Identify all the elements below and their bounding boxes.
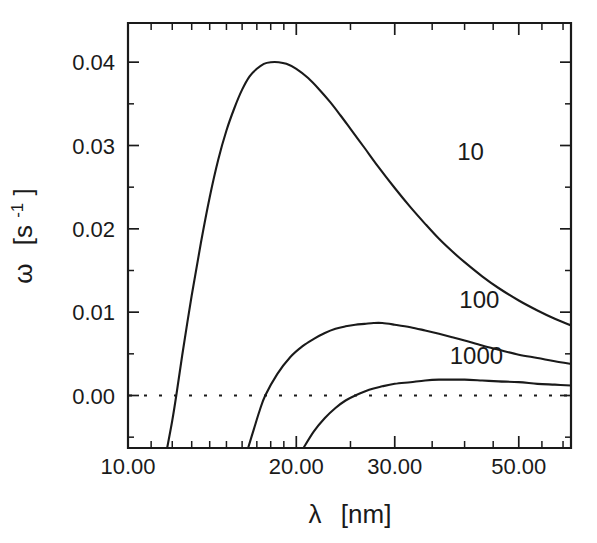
y-axis-title-exponent: -1 [8, 203, 27, 218]
curve-series-1000 [303, 380, 571, 448]
y-axis-title-symbol: ω [8, 263, 38, 283]
axes-frame [128, 23, 571, 448]
x-tick-label: 50.00 [491, 454, 546, 479]
y-axis-tick-labels: 0.000.010.020.030.04 [72, 50, 115, 408]
x-tick-label: 20.00 [269, 454, 324, 479]
x-axis-minor-ticks [151, 23, 563, 448]
y-tick-label: 0.02 [72, 217, 115, 242]
curve-label-100: 100 [459, 286, 499, 313]
curve-label-1000: 1000 [450, 342, 503, 369]
dispersion-relation-plot: 10 100 1000 10.0020.0030.0050.00 0.000.0… [0, 0, 597, 543]
y-tick-label: 0.03 [72, 134, 115, 159]
x-tick-label: 10.00 [100, 454, 155, 479]
y-tick-label: 0.00 [72, 384, 115, 409]
curve-series-100 [248, 323, 571, 448]
y-tick-label: 0.01 [72, 300, 115, 325]
figure-canvas: 10 100 1000 10.0020.0030.0050.00 0.000.0… [0, 0, 597, 543]
y-axis-title-unit-open: [s [8, 225, 38, 245]
y-tick-label: 0.04 [72, 50, 115, 75]
y-axis-minor-ticks [128, 104, 571, 437]
y-axis-title-unit-close: ] [8, 188, 38, 195]
x-axis-major-ticks [128, 23, 519, 448]
x-axis-title-symbol: λ [309, 499, 322, 529]
x-axis-title: λ [nm] [309, 499, 392, 529]
curve-label-10: 10 [457, 138, 484, 165]
data-curves [167, 62, 571, 448]
x-axis-title-unit: [nm] [341, 499, 392, 529]
x-tick-label: 30.00 [367, 454, 422, 479]
x-axis-tick-labels: 10.0020.0030.0050.00 [100, 454, 546, 479]
y-axis-title: ω [s -1 ] [0, 188, 38, 284]
y-axis-major-ticks [128, 62, 571, 395]
